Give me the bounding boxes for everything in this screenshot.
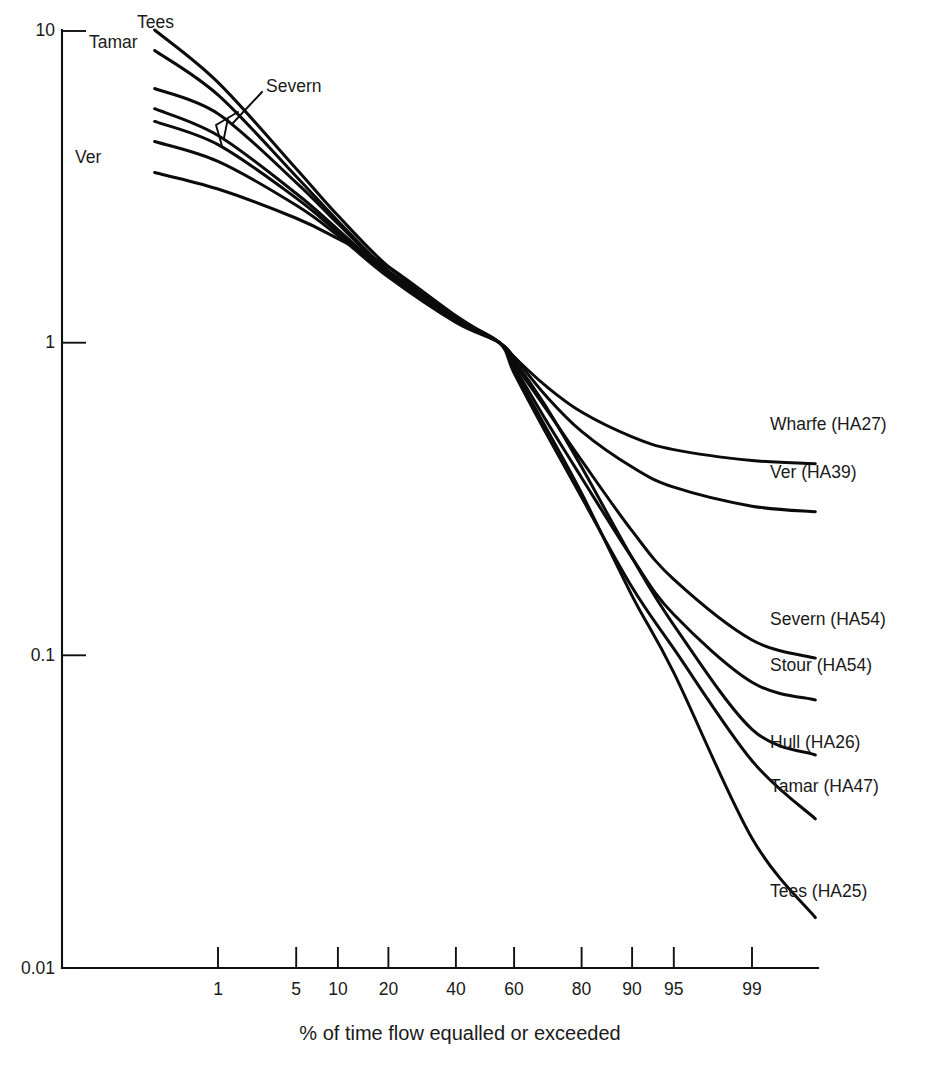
curve-label-stour: Stour (HA54) <box>770 655 872 675</box>
x-tick-label: 20 <box>379 979 399 999</box>
x-tick-label: 10 <box>328 979 348 999</box>
x-tick-label: 95 <box>664 979 683 999</box>
chart-svg: 1010.10.01 151020406080909599 Tees Tamar… <box>0 0 934 1071</box>
curve-label-tees: Tees (HA25) <box>770 881 867 901</box>
curve-label-tamar-left: Tamar <box>89 32 138 52</box>
curve-group <box>155 30 816 918</box>
x-tick-label: 80 <box>572 979 592 999</box>
curve-label-hull: Hull (HA26) <box>770 732 860 752</box>
left-labels-group: Tees Tamar Severn Ver <box>75 12 321 167</box>
flow-duration-chart: 1010.10.01 151020406080909599 Tees Tamar… <box>0 0 934 1071</box>
x-tick-label: 60 <box>504 979 524 999</box>
y-tick-label: 0.1 <box>31 645 55 665</box>
curve-hull <box>155 141 816 755</box>
x-axis-title: % of time flow equalled or exceeded <box>299 1022 620 1044</box>
x-tick-label: 99 <box>742 979 761 999</box>
curve-label-severn-left: Severn <box>266 76 321 96</box>
curve-label-tees-left: Tees <box>137 12 174 32</box>
curve-stour <box>155 109 816 700</box>
curve-label-severn: Severn (HA54) <box>770 609 886 629</box>
curve-label-ver: Ver (HA39) <box>770 462 857 482</box>
x-tick-label: 90 <box>622 979 642 999</box>
curve-wharfe <box>155 89 816 464</box>
axes-group <box>62 30 818 968</box>
curve-ver <box>155 173 816 512</box>
y-tick-label: 1 <box>45 332 55 352</box>
curve-tees <box>155 30 816 918</box>
curve-label-ver-left: Ver <box>75 147 101 167</box>
y-tick-label: 10 <box>36 20 56 40</box>
curve-label-wharfe: Wharfe (HA27) <box>770 414 887 434</box>
severn-leader-line <box>233 92 262 123</box>
y-tick-label: 0.01 <box>21 958 55 978</box>
x-tick-label: 5 <box>291 979 301 999</box>
x-tick-label: 40 <box>446 979 466 999</box>
right-labels-group: Wharfe (HA27) Ver (HA39) Severn (HA54) S… <box>770 414 887 901</box>
x-tick-group: 151020406080909599 <box>213 947 762 999</box>
x-tick-label: 1 <box>213 979 223 999</box>
curve-label-tamar: Tamar (HA47) <box>770 776 879 796</box>
